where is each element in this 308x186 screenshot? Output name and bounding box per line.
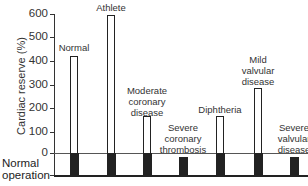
label-line: Normal (39, 42, 109, 53)
y-tick-400: 400 (20, 54, 48, 66)
label-line: disease (223, 76, 293, 87)
category-label-athlete: Athlete (76, 2, 146, 13)
label-line: thrombosis (148, 144, 218, 155)
category-label-severe-coronary: Severe coronary thrombosis (148, 122, 218, 155)
label-line: Mild (223, 54, 293, 65)
label-line: coronary (148, 133, 218, 144)
bar-normal-reserve (70, 56, 78, 154)
label-line: Normal (2, 157, 50, 169)
bar-normal-operation (70, 153, 79, 175)
y-tick-500: 500 (20, 30, 48, 42)
label-line: Athlete (76, 2, 146, 13)
y-tick-100: 100 (20, 125, 48, 137)
bar-athlete-operation (107, 153, 116, 175)
category-label-normal: Normal (39, 42, 109, 53)
label-line: Diphtheria (185, 104, 255, 115)
bar-severe-valvular-operation (290, 157, 299, 175)
label-line: Moderate (112, 85, 182, 96)
bar-mild-valvular-operation (254, 153, 263, 175)
label-line: coronary (112, 96, 182, 107)
y-axis (54, 14, 55, 176)
category-label-diphtheria: Diphtheria (185, 104, 255, 115)
label-line: valvular (223, 65, 293, 76)
label-line: operation (2, 169, 50, 181)
category-label-moderate-coronary: Moderate coronary disease (112, 85, 182, 118)
label-line: Severe (259, 122, 308, 133)
y-tick-300: 300 (20, 78, 48, 90)
label-line: disease (259, 144, 308, 155)
bar-moderate-coronary-operation (143, 153, 152, 175)
y-tick-600: 600 (20, 7, 48, 19)
bar-diphtheria-operation (216, 153, 225, 175)
normal-operation-label: Normal operation (2, 157, 50, 181)
category-label-mild-valvular: Mild valvular disease (223, 54, 293, 87)
label-line: Severe (148, 122, 218, 133)
bar-severe-coronary-operation (179, 157, 188, 175)
y-tick-200: 200 (20, 101, 48, 113)
label-line: valvular (259, 133, 308, 144)
baseline (54, 175, 308, 177)
label-line: disease (112, 107, 182, 118)
bar-diphtheria-reserve (216, 116, 224, 154)
category-label-severe-valvular: Severe valvular disease (259, 122, 308, 155)
